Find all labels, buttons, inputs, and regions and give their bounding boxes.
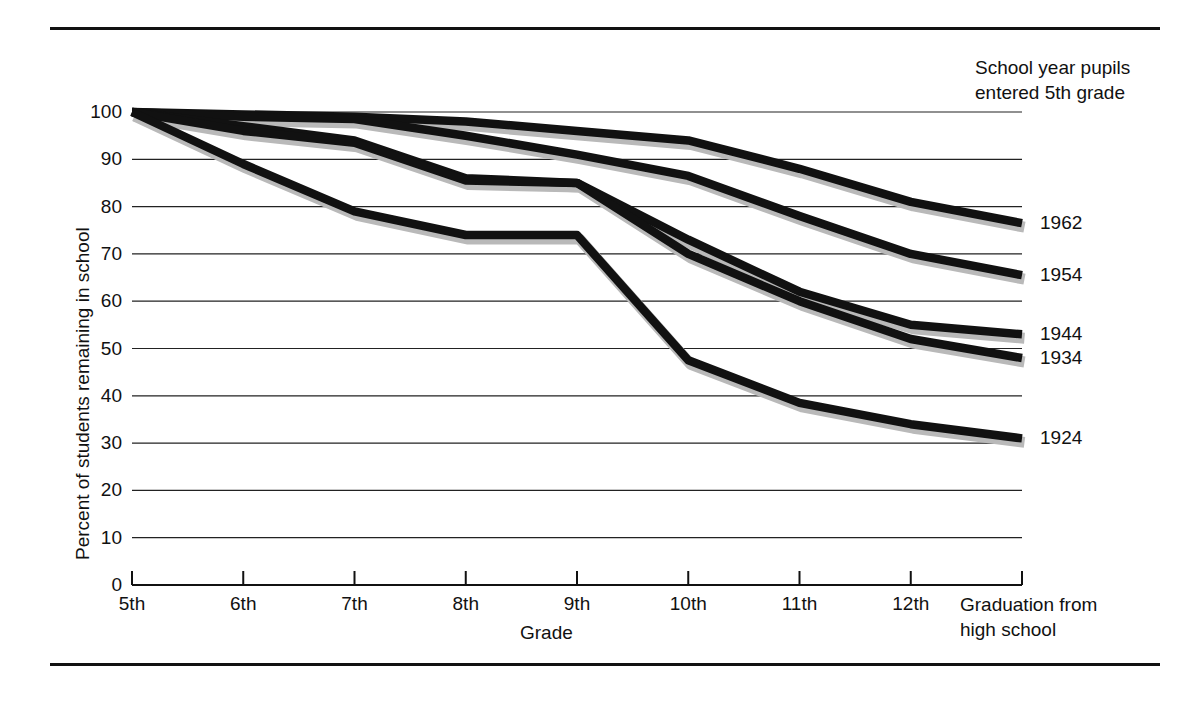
x-tick-label-10th: 10th — [643, 593, 733, 615]
x-tick-label-7th: 7th — [310, 593, 400, 615]
y-tick-label-100: 100 — [76, 101, 122, 123]
legend-title-line-1: School year pupils — [975, 55, 1130, 80]
series-shadow-1924 — [135, 116, 1025, 442]
x-tick-label-11th: 11th — [755, 593, 845, 615]
series-shadow-1944 — [135, 116, 1025, 338]
legend-title: School year pupils entered 5th grade — [975, 55, 1130, 105]
x-axis-title: Grade — [520, 622, 573, 644]
legend-title-line-2: entered 5th grade — [975, 80, 1130, 105]
x-tick-label-graduation-line-2: high school — [960, 617, 1097, 642]
x-tick-label-graduation: Graduation from high school — [960, 592, 1097, 642]
y-axis-title: Percent of students remaining in school — [72, 227, 94, 560]
y-tick-label-80: 80 — [76, 196, 122, 218]
series-shadow-group — [135, 116, 1025, 442]
x-tick-label-9th: 9th — [532, 593, 622, 615]
x-tick-label-graduation-line-1: Graduation from — [960, 592, 1097, 617]
series-label-1934: 1934 — [1040, 347, 1082, 369]
series-label-1944: 1944 — [1040, 323, 1082, 345]
y-tick-label-90: 90 — [76, 148, 122, 170]
x-tick-marks-group — [243, 571, 911, 585]
series-label-1924: 1924 — [1040, 427, 1082, 449]
x-tick-label-5th: 5th — [87, 593, 177, 615]
x-tick-label-6th: 6th — [198, 593, 288, 615]
series-label-1962: 1962 — [1040, 212, 1082, 234]
x-tick-label-8th: 8th — [421, 593, 511, 615]
x-tick-label-12th: 12th — [866, 593, 956, 615]
series-label-1954: 1954 — [1040, 264, 1082, 286]
figure-container: 1009080706050403020100 5th6th7th8th9th10… — [0, 0, 1197, 703]
